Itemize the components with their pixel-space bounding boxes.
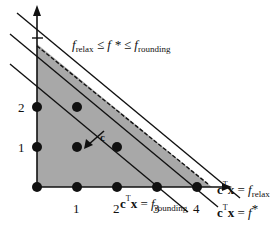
feasible-region [37,44,212,187]
bound-leq-1: ≤ [94,37,108,52]
y-axis-arrow-icon [33,5,41,16]
cost-vector-label: c [100,131,105,143]
x-tick-4: 4 [193,201,200,216]
point-0-2 [32,102,42,112]
diagram-canvas: c 1 2 3 4 1 2 frelax ≤ f * ≤ frounding c… [0,0,274,233]
point-0-0 [32,182,42,192]
bound-leq-2: ≤ [121,37,135,52]
point-1-2 [72,102,82,112]
y-tick-1: 1 [18,140,25,155]
point-3-0 [152,182,162,192]
x-tick-1: 1 [73,201,80,216]
bound-f-round-sub: rounding [138,44,171,54]
point-1-0 [72,182,82,192]
x-tick-2: 2 [113,201,120,216]
point-0-1 [32,142,42,152]
bound-f-relax-sub: relax [76,44,94,54]
point-2-1 [112,142,122,152]
y-tick-2: 2 [18,100,25,115]
bound-label: frelax ≤ f * ≤ frounding [72,37,171,54]
label-line-star: cTx = f* [217,201,258,220]
label-line-rounding: cTx = frounding [120,194,188,213]
point-2-0 [112,182,122,192]
point-4-0 [192,182,202,192]
point-1-1 [72,142,82,152]
bound-f-star: f * [107,37,121,52]
